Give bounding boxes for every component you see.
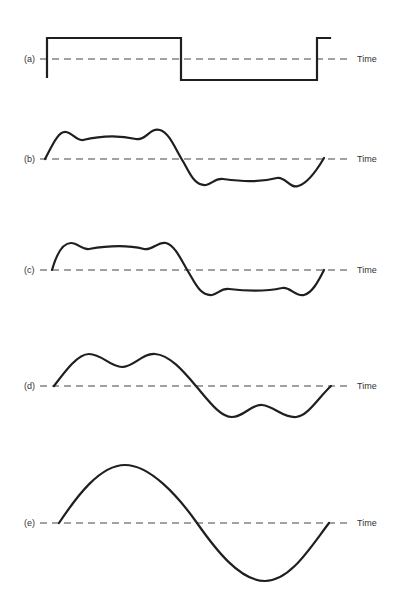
wave-b — [45, 130, 324, 187]
panel-e: (e) Time — [24, 465, 377, 581]
panel-d: (d) Time — [24, 354, 377, 417]
time-label-e: Time — [357, 518, 377, 528]
panel-label-d: (d) — [24, 381, 35, 391]
panel-b: (b) Time — [24, 130, 377, 187]
panel-label-c: (c) — [24, 265, 35, 275]
panel-c: (c) Time — [24, 243, 377, 296]
panel-label-a: (a) — [24, 54, 35, 64]
panel-a: (a) Time — [24, 38, 377, 80]
waveform-figure: (a) Time (b) Time (c) Time (d) Time (e) … — [0, 0, 396, 600]
panel-label-e: (e) — [24, 518, 35, 528]
time-label-c: Time — [357, 265, 377, 275]
time-label-a: Time — [357, 54, 377, 64]
wave-c — [52, 243, 324, 296]
wave-d — [54, 354, 331, 417]
time-label-d: Time — [357, 381, 377, 391]
wave-e — [59, 465, 329, 581]
panel-label-b: (b) — [24, 154, 35, 164]
time-label-b: Time — [357, 154, 377, 164]
